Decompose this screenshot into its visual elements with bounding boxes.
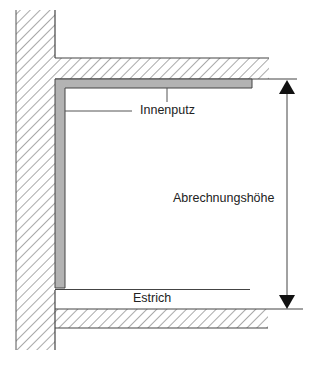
- screed-label: Estrich: [133, 292, 171, 305]
- arrowhead-down-icon: [279, 295, 295, 309]
- height-dimension-arrow: [279, 80, 295, 309]
- inner-plaster-label: Innenputz: [140, 104, 195, 117]
- wall: [16, 10, 55, 350]
- floor-slab: [55, 290, 303, 328]
- ceiling-slab: [55, 58, 297, 79]
- section-drawing: [0, 0, 319, 372]
- arrowhead-up-icon: [279, 80, 295, 94]
- billing-height-label: Abrechnungshöhe: [173, 192, 274, 205]
